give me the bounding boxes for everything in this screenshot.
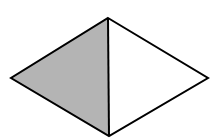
diagram-canvas	[0, 0, 221, 139]
vertical-diagonal-line	[108, 18, 109, 136]
shaded-left-triangle	[11, 18, 109, 136]
rhombus-diagram	[0, 0, 221, 139]
unshaded-right-triangle	[108, 18, 208, 136]
